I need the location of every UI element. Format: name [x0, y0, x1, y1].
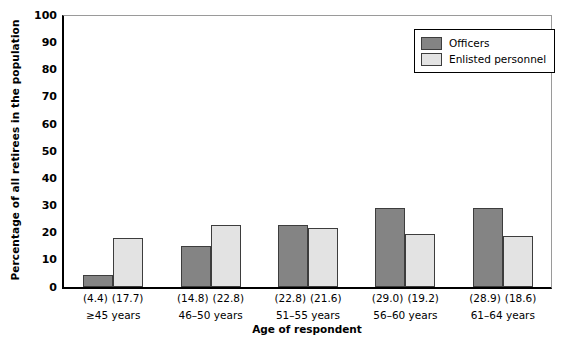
x-axis-group-values: (22.8)(21.6) — [259, 291, 356, 305]
x-axis-title: Age of respondent — [62, 323, 552, 335]
legend-swatch-icon — [421, 53, 442, 66]
y-axis-tick-label: 10 — [8, 253, 62, 266]
enlisted-value-label: (19.2) — [407, 292, 439, 304]
bar-enlisted[interactable] — [405, 234, 435, 286]
officers-value-label: (4.4) — [83, 292, 108, 304]
legend: OfficersEnlisted personnel — [414, 29, 555, 73]
x-axis-category-label: 51–55 years — [259, 308, 356, 323]
x-axis-group-values: (4.4)(17.7) — [65, 291, 162, 305]
bar-enlisted[interactable] — [211, 225, 241, 287]
x-axis-group: (22.8)(21.6)51–55 years — [259, 291, 356, 323]
bar-group — [278, 15, 338, 287]
y-axis-tick-label: 80 — [8, 63, 62, 76]
bar-officers[interactable] — [181, 246, 211, 286]
x-axis-group: (28.9)(18.6)61–64 years — [454, 291, 551, 323]
legend-item[interactable]: Enlisted personnel — [421, 51, 546, 67]
x-axis-group: (29.0)(19.2)56–60 years — [357, 291, 454, 323]
x-axis-category-label: ≥45 years — [65, 308, 162, 323]
x-axis-group: (4.4)(17.7)≥45 years — [65, 291, 162, 323]
x-axis-group: (14.8)(22.8)46–50 years — [162, 291, 259, 323]
officers-value-label: (14.8) — [177, 292, 209, 304]
officers-value-label: (29.0) — [372, 292, 404, 304]
x-axis-category-label: 46–50 years — [162, 308, 259, 323]
bar-enlisted[interactable] — [503, 236, 533, 286]
x-axis-group-values: (29.0)(19.2) — [357, 291, 454, 305]
legend-item-label: Enlisted personnel — [449, 53, 546, 65]
enlisted-value-label: (21.6) — [310, 292, 342, 304]
y-axis-tick-label: 0 — [8, 280, 62, 293]
y-axis-tick-label: 100 — [8, 9, 62, 22]
bar-enlisted[interactable] — [308, 228, 338, 287]
x-axis-category-label: 61–64 years — [454, 308, 551, 323]
legend-item-label: Officers — [449, 37, 489, 49]
y-axis-tick-label: 30 — [8, 199, 62, 212]
bar-group — [181, 15, 241, 287]
enlisted-value-label: (22.8) — [213, 292, 245, 304]
officers-value-label: (28.9) — [469, 292, 501, 304]
y-axis-tick-label: 60 — [8, 117, 62, 130]
y-axis-tick-label: 70 — [8, 90, 62, 103]
x-axis-group-values: (14.8)(22.8) — [162, 291, 259, 305]
y-axis-tick-label: 20 — [8, 226, 62, 239]
bar-officers[interactable] — [83, 275, 113, 287]
bar-officers[interactable] — [278, 225, 308, 287]
y-axis-tick-label: 90 — [8, 36, 62, 49]
bar-enlisted[interactable] — [113, 238, 143, 286]
enlisted-value-label: (18.6) — [505, 292, 537, 304]
y-axis-tick-label: 50 — [8, 144, 62, 157]
bar-officers[interactable] — [473, 208, 503, 286]
bar-officers[interactable] — [375, 208, 405, 287]
y-axis-tick-label: 40 — [8, 171, 62, 184]
legend-item[interactable]: Officers — [421, 35, 546, 51]
x-axis-group-values: (28.9)(18.6) — [454, 291, 551, 305]
bar-group — [83, 15, 143, 287]
officers-value-label: (22.8) — [274, 292, 306, 304]
legend-swatch-icon — [421, 37, 442, 50]
x-axis-category-label: 56–60 years — [357, 308, 454, 323]
enlisted-value-label: (17.7) — [112, 292, 144, 304]
